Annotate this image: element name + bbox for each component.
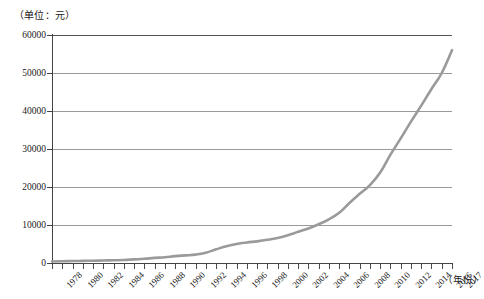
x-tick-mark-2000 bbox=[278, 264, 279, 269]
x-tick-label-1988: 1988 bbox=[167, 270, 187, 290]
x-tick-mark-1985 bbox=[124, 264, 125, 269]
x-tick-mark-2012 bbox=[401, 264, 402, 269]
x-tick-mark-2015 bbox=[431, 264, 432, 269]
x-tick-mark-2006 bbox=[339, 264, 340, 269]
x-tick-label-1996: 1996 bbox=[249, 270, 269, 290]
x-tick-mark-1995 bbox=[226, 264, 227, 269]
x-tick-mark-1993 bbox=[206, 264, 207, 269]
x-tick-label-1998: 1998 bbox=[269, 270, 289, 290]
x-tick-mark-1994 bbox=[216, 264, 217, 269]
x-tick-label-2012: 2012 bbox=[413, 270, 433, 290]
x-tick-mark-2005 bbox=[329, 264, 330, 269]
x-tick-mark-2001 bbox=[288, 264, 289, 269]
x-tick-label-1984: 1984 bbox=[126, 270, 146, 290]
x-tick-mark-2004 bbox=[319, 264, 320, 269]
x-tick-mark-1991 bbox=[185, 264, 186, 269]
x-tick-label-2010: 2010 bbox=[392, 270, 412, 290]
x-tick-mark-2016 bbox=[442, 264, 443, 269]
y-tick-mark-10000 bbox=[47, 225, 52, 226]
x-tick-mark-1997 bbox=[247, 264, 248, 269]
x-tick-mark-1990 bbox=[175, 264, 176, 269]
x-tick-label-1994: 1994 bbox=[228, 270, 248, 290]
series-path bbox=[52, 50, 452, 261]
x-tick-label-2008: 2008 bbox=[372, 270, 392, 290]
x-tick-mark-1983 bbox=[103, 264, 104, 269]
x-tick-label-1992: 1992 bbox=[208, 270, 228, 290]
x-tick-mark-2014 bbox=[421, 264, 422, 269]
x-tick-mark-1999 bbox=[267, 264, 268, 269]
x-tick-mark-1982 bbox=[93, 264, 94, 269]
x-tick-mark-2013 bbox=[411, 264, 412, 269]
x-tick-label-1980: 1980 bbox=[85, 270, 105, 290]
y-tick-mark-0 bbox=[47, 263, 52, 264]
x-tick-mark-1989 bbox=[165, 264, 166, 269]
x-tick-mark-1996 bbox=[237, 264, 238, 269]
x-tick-mark-2003 bbox=[308, 264, 309, 269]
x-tick-label-2002: 2002 bbox=[310, 270, 330, 290]
x-tick-mark-2009 bbox=[370, 264, 371, 269]
x-tick-label-2000: 2000 bbox=[290, 270, 310, 290]
y-tick-mark-40000 bbox=[47, 111, 52, 112]
x-tick-mark-1979 bbox=[62, 264, 63, 269]
x-tick-mark-1981 bbox=[83, 264, 84, 269]
x-tick-label-2006: 2006 bbox=[351, 270, 371, 290]
x-tick-mark-2007 bbox=[349, 264, 350, 269]
x-tick-mark-1980 bbox=[73, 264, 74, 269]
x-tick-mark-1987 bbox=[144, 264, 145, 269]
data-series-line bbox=[52, 35, 452, 263]
x-tick-mark-1988 bbox=[155, 264, 156, 269]
x-tick-label-1978: 1978 bbox=[64, 270, 84, 290]
y-tick-mark-50000 bbox=[47, 73, 52, 74]
x-tick-mark-2010 bbox=[380, 264, 381, 269]
x-tick-mark-2008 bbox=[360, 264, 361, 269]
x-tick-mark-2011 bbox=[390, 264, 391, 269]
x-tick-mark-1998 bbox=[257, 264, 258, 269]
x-tick-label-1982: 1982 bbox=[105, 270, 125, 290]
x-axis-caption: （年份） bbox=[443, 275, 483, 286]
y-tick-mark-30000 bbox=[47, 149, 52, 150]
x-tick-mark-1992 bbox=[196, 264, 197, 269]
x-tick-mark-2017 bbox=[452, 264, 453, 269]
x-tick-mark-2002 bbox=[298, 264, 299, 269]
y-tick-mark-20000 bbox=[47, 187, 52, 188]
x-tick-mark-1986 bbox=[134, 264, 135, 269]
y-tick-mark-60000 bbox=[47, 35, 52, 36]
x-tick-mark-1984 bbox=[114, 264, 115, 269]
x-tick-label-2004: 2004 bbox=[331, 270, 351, 290]
x-tick-label-1986: 1986 bbox=[146, 270, 166, 290]
x-tick-mark-1978 bbox=[52, 264, 53, 269]
x-tick-label-1990: 1990 bbox=[187, 270, 207, 290]
